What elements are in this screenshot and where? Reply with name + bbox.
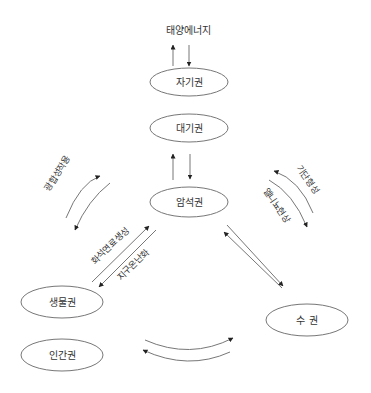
earth-system-diagram: 태양에너지 자기권 대기권 암석권 광합성작용 기단형성 엘니뇨현상 bbox=[0, 0, 371, 393]
el-nino-label: 엘니뇨현상 bbox=[261, 186, 292, 225]
atmosphere-node: 대기권 bbox=[150, 114, 228, 142]
atmosphere-lithosphere-arrows bbox=[173, 154, 190, 180]
anthroposphere-hydrosphere-arrows bbox=[143, 338, 233, 361]
anthroposphere-node: 인간권 bbox=[21, 339, 103, 371]
lithosphere-node: 암석권 bbox=[150, 187, 228, 217]
solar-energy-label: 태양에너지 bbox=[166, 25, 211, 36]
air-mass-formation-label: 기단형성 bbox=[294, 163, 321, 195]
photosynthesis-label: 광합성작용 bbox=[42, 153, 73, 193]
biosphere-label: 생물권 bbox=[49, 297, 76, 308]
magnetosphere-node: 자기권 bbox=[150, 68, 228, 96]
atmosphere-label: 대기권 bbox=[176, 123, 203, 134]
hydrosphere-node: 수 권 bbox=[266, 304, 348, 336]
hydrosphere-label: 수 권 bbox=[296, 315, 317, 326]
fossil-fuel-formation-label: 화석연료생성 bbox=[89, 226, 130, 267]
lithosphere-label: 암석권 bbox=[176, 197, 203, 208]
solar-magnetosphere-arrows bbox=[173, 45, 189, 66]
anthroposphere-label: 인간권 bbox=[49, 350, 76, 361]
photosynthesis-arrows bbox=[66, 176, 110, 230]
biosphere-node: 생물권 bbox=[21, 286, 103, 318]
magnetosphere-label: 자기권 bbox=[176, 77, 203, 88]
lithosphere-hydrosphere-arrows bbox=[224, 225, 283, 288]
